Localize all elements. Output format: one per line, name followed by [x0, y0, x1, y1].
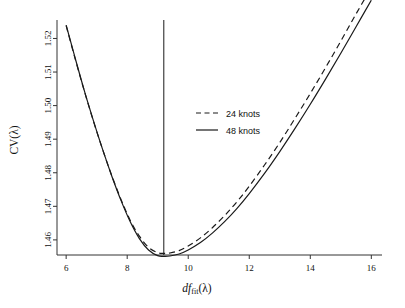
- legend-label-24-knots: 24 knots: [226, 109, 261, 119]
- x-axis-ticks: 6810121416: [64, 255, 376, 273]
- x-tick-label: 6: [64, 263, 69, 273]
- legend: 24 knots 48 knots: [196, 109, 261, 136]
- x-axis-title-arg: (λ): [198, 282, 211, 295]
- y-tick-label: 1.49: [43, 131, 53, 147]
- y-tick-label: 1.47: [43, 198, 53, 214]
- y-tick-label: 1.51: [43, 64, 53, 80]
- y-axis-title: CV(λ): [8, 125, 21, 154]
- y-tick-label: 1.52: [43, 31, 53, 47]
- x-tick-label: 10: [184, 263, 194, 273]
- cv-vs-df-plot-figure: 1.461.471.481.491.501.511.52 6810121416 …: [0, 0, 405, 308]
- y-tick-label: 1.50: [43, 97, 53, 113]
- y-tick-label: 1.46: [43, 232, 53, 248]
- x-tick-label: 12: [245, 263, 254, 273]
- series-line-24-knots: [66, 0, 371, 253]
- plot-canvas: 1.461.471.481.491.501.511.52 6810121416 …: [0, 0, 405, 308]
- x-tick-label: 8: [125, 263, 130, 273]
- x-tick-label: 16: [367, 263, 377, 273]
- y-axis-ticks: 1.461.471.481.491.501.511.52: [43, 31, 57, 248]
- series-line-48-knots: [66, 0, 371, 256]
- legend-label-48-knots: 48 knots: [226, 126, 261, 136]
- x-axis-title: dffit(λ): [182, 282, 211, 296]
- x-tick-label: 14: [306, 263, 316, 273]
- x-axis-title-text: dffit(λ): [182, 282, 211, 296]
- y-tick-label: 1.48: [43, 164, 53, 180]
